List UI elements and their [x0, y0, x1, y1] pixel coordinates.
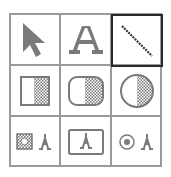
tool-oval[interactable] [112, 66, 162, 117]
diagonal-line-icon [117, 20, 157, 60]
arrow-pointer-icon [17, 20, 53, 60]
tool-button-text[interactable] [11, 117, 61, 167]
half-filled-rectangle-icon [18, 74, 52, 108]
tool-pointer[interactable] [11, 15, 61, 66]
half-filled-oval-icon [118, 72, 156, 110]
radio-with-A-icon [117, 130, 157, 154]
tool-palette [9, 13, 162, 167]
tool-framed-text[interactable] [61, 117, 112, 167]
half-filled-rounded-rectangle-icon [66, 74, 106, 108]
framed-A-icon [66, 127, 106, 157]
tool-text[interactable] [61, 15, 112, 66]
tool-rectangle[interactable] [11, 66, 61, 117]
checkbox-with-A-icon [15, 130, 55, 154]
tool-line[interactable] [112, 15, 162, 66]
tool-rounded-rectangle[interactable] [61, 66, 112, 117]
text-A-icon [66, 22, 106, 58]
tool-radio-text[interactable] [112, 117, 162, 167]
